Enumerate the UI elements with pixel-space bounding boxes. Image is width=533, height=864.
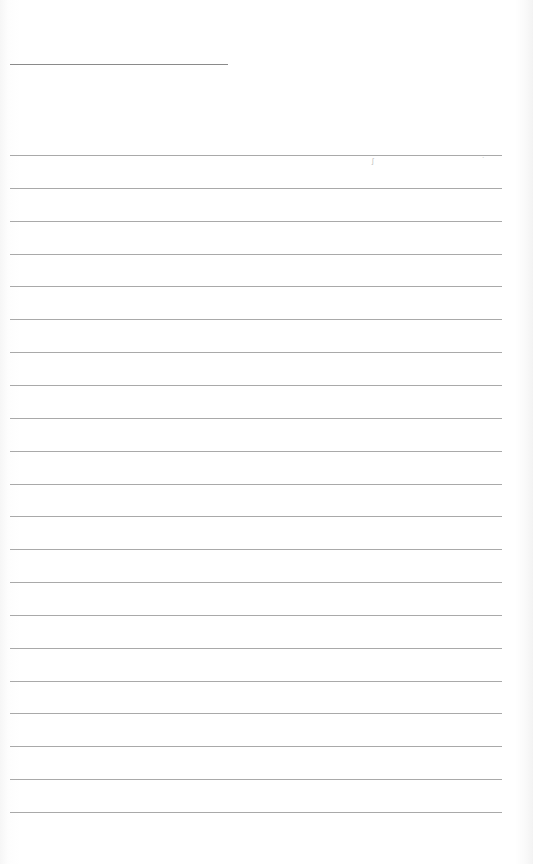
ruled-line xyxy=(10,648,502,649)
title-line xyxy=(10,64,228,65)
ruled-line xyxy=(10,713,502,714)
ruled-line xyxy=(10,516,502,517)
ruled-line xyxy=(10,615,502,616)
ruled-line xyxy=(10,418,502,419)
ruled-line xyxy=(10,254,502,255)
notebook-page: ʃ · xyxy=(0,0,533,864)
ruled-line xyxy=(10,385,502,386)
ruled-line xyxy=(10,451,502,452)
ruled-line xyxy=(10,286,502,287)
ruled-line xyxy=(10,681,502,682)
ruled-line xyxy=(10,746,502,747)
paper-mark: · xyxy=(482,154,484,161)
ruled-line xyxy=(10,779,502,780)
ruled-line xyxy=(10,582,502,583)
ruled-line xyxy=(10,812,502,813)
ruled-line xyxy=(10,352,502,353)
ruled-line xyxy=(10,155,502,156)
ruled-line xyxy=(10,319,502,320)
paper-mark: ʃ xyxy=(372,157,374,164)
ruled-line xyxy=(10,484,502,485)
ruled-line xyxy=(10,188,502,189)
ruled-line xyxy=(10,549,502,550)
ruled-line xyxy=(10,221,502,222)
